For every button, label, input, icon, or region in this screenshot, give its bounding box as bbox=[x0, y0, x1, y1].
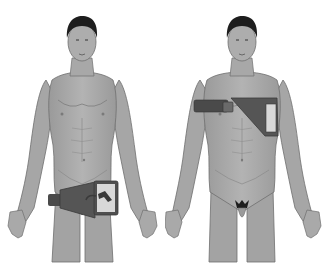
left-hand bbox=[8, 210, 26, 238]
device-buckle bbox=[223, 102, 233, 112]
illustration-canvas: Figure with device pouch worn at lower a… bbox=[0, 0, 329, 273]
device-window bbox=[266, 104, 276, 132]
nipple bbox=[219, 113, 222, 116]
nipple bbox=[61, 113, 64, 116]
left-hand bbox=[165, 210, 182, 238]
figure-left-hip-device: Figure with device pouch worn at lower a… bbox=[0, 0, 165, 273]
right-hand bbox=[303, 210, 321, 238]
nipple bbox=[102, 113, 105, 116]
male-figure-left bbox=[0, 0, 165, 273]
figure-right-chest-device: Figure with device pouch worn across upp… bbox=[165, 0, 329, 273]
right-hand bbox=[139, 210, 157, 238]
male-figure-right bbox=[165, 0, 329, 273]
